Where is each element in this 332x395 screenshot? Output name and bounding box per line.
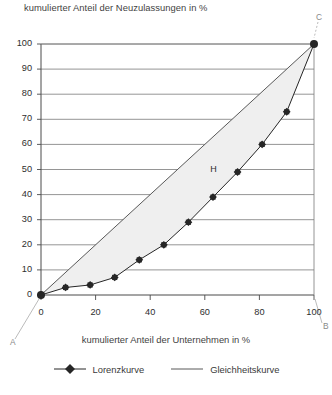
x-tick-label: 40 xyxy=(135,307,165,317)
y-tick-marks xyxy=(37,44,41,295)
diamond-line-icon xyxy=(53,363,87,375)
lorenz-curve-chart: kumulierter Anteil der Neuzulassungen in… xyxy=(0,0,332,395)
chart-legend: Lorenzkurve Gleichheitskurve xyxy=(0,363,332,375)
y-tick-label: 0 xyxy=(2,289,32,299)
gridlines xyxy=(41,44,314,270)
annotation-label-b: B xyxy=(323,321,329,331)
y-tick-label: 30 xyxy=(2,214,32,224)
y-tick-label: 80 xyxy=(2,88,32,98)
y-tick-label: 60 xyxy=(2,138,32,148)
x-tick-label: 80 xyxy=(244,307,274,317)
legend-label-gleichheitskurve: Gleichheitskurve xyxy=(210,364,279,375)
line-icon xyxy=(170,363,204,375)
legend-label-lorenzkurve: Lorenzkurve xyxy=(93,364,145,375)
y-tick-label: 100 xyxy=(2,38,32,48)
y-tick-label: 70 xyxy=(2,113,32,123)
y-tick-label: 90 xyxy=(2,63,32,73)
x-tick-marks xyxy=(41,295,314,300)
y-tick-label: 50 xyxy=(2,164,32,174)
x-tick-label: 20 xyxy=(81,307,111,317)
legend-item-lorenzkurve: Lorenzkurve xyxy=(53,363,145,375)
y-tick-label: 10 xyxy=(2,264,32,274)
x-axis-title: kumulierter Anteil der Unternehmen in % xyxy=(0,334,332,345)
x-tick-label: 0 xyxy=(26,307,56,317)
annotation-label-c: C xyxy=(316,12,322,22)
x-tick-label: 100 xyxy=(299,307,329,317)
legend-item-gleichheitskurve: Gleichheitskurve xyxy=(170,363,279,375)
x-tick-label: 60 xyxy=(190,307,220,317)
annotation-label-h: H xyxy=(210,164,217,174)
y-tick-label: 20 xyxy=(2,239,32,249)
y-tick-label: 40 xyxy=(2,189,32,199)
